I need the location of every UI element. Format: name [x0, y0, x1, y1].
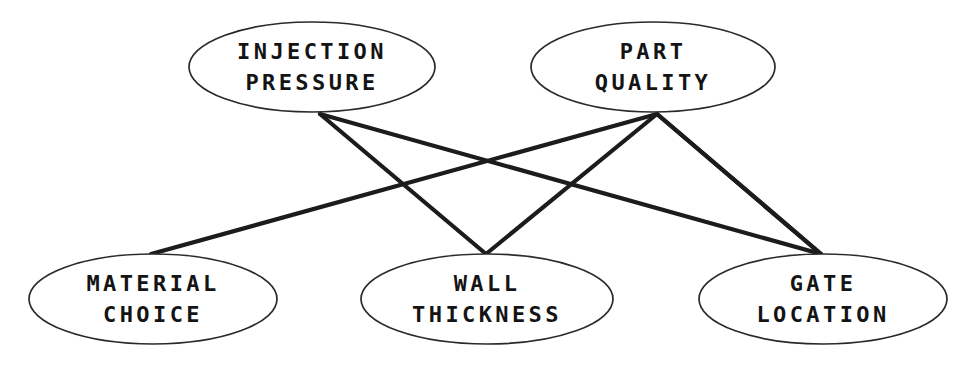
node-material-choice[interactable] — [29, 254, 277, 344]
edge-group — [151, 114, 821, 254]
node-gate-location[interactable] — [699, 254, 947, 344]
edge-part-quality-to-material-choice — [486, 114, 657, 254]
node-part-quality[interactable] — [531, 22, 775, 112]
diagram-canvas: INJECTION PRESSURE PART QUALITY MATERIAL… — [0, 0, 972, 371]
node-wall-thickness[interactable] — [361, 254, 613, 344]
node-injection-pressure[interactable] — [189, 22, 435, 112]
edge-injection-pressure-to-gate-location — [151, 114, 657, 254]
